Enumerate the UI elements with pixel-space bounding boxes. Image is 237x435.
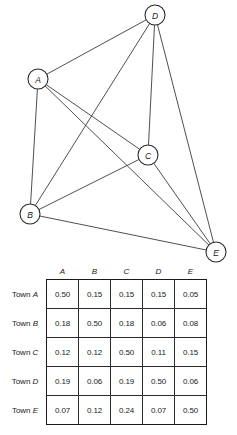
graph-edge-d-e [157, 25, 213, 243]
row-header-letter: B [33, 319, 38, 328]
transition-matrix-figure: ABCDE Town A0.500.150.150.150.05Town B0.… [0, 262, 237, 435]
graph-nodes-group: ABCDE [20, 5, 226, 262]
row-header-letter: A [33, 290, 38, 299]
matrix-row: Town C0.120.120.500.110.15 [4, 338, 207, 367]
matrix-col-header-a: A [47, 264, 79, 280]
row-header-word: Town [12, 348, 33, 357]
graph-node-b[interactable]: B [20, 204, 40, 224]
matrix-row: Town B0.180.500.180.060.08 [4, 309, 207, 338]
matrix-cell-c-b: 0.12 [79, 338, 111, 367]
transition-matrix-table: ABCDE Town A0.500.150.150.150.05Town B0.… [4, 264, 207, 425]
matrix-header-row: ABCDE [4, 264, 207, 280]
matrix-cell-a-b: 0.15 [79, 280, 111, 309]
matrix-table-head: ABCDE [4, 264, 207, 280]
graph-node-e[interactable]: E [206, 242, 226, 262]
graph-edge-a-c [46, 85, 140, 150]
matrix-cell-c-e: 0.15 [175, 338, 207, 367]
matrix-col-header-c: C [111, 264, 143, 280]
matrix-row-header-b: Town B [4, 309, 47, 338]
matrix-cell-b-d: 0.06 [143, 309, 175, 338]
graph-edge-a-b [31, 89, 38, 204]
matrix-cell-a-d: 0.15 [143, 280, 175, 309]
matrix-col-header-d: D [143, 264, 175, 280]
graph-edges-group [31, 20, 214, 250]
matrix-cell-d-a: 0.19 [47, 367, 79, 396]
matrix-table-body: Town A0.500.150.150.150.05Town B0.180.50… [4, 280, 207, 425]
matrix-cell-d-e: 0.06 [175, 367, 207, 396]
network-graph-figure: ABCDE [0, 0, 237, 268]
row-header-word: Town [12, 290, 33, 299]
matrix-cell-b-a: 0.18 [47, 309, 79, 338]
matrix-cell-d-c: 0.19 [111, 367, 143, 396]
matrix-cell-b-b: 0.50 [79, 309, 111, 338]
node-label-e: E [213, 248, 219, 258]
matrix-cell-c-d: 0.11 [143, 338, 175, 367]
matrix-cell-b-c: 0.18 [111, 309, 143, 338]
matrix-row: Town A0.500.150.150.150.05 [4, 280, 207, 309]
row-header-word: Town [12, 319, 33, 328]
matrix-row: Town E0.070.120.240.070.50 [4, 396, 207, 425]
matrix-cell-c-c: 0.50 [111, 338, 143, 367]
matrix-cell-d-b: 0.06 [79, 367, 111, 396]
matrix-col-header-e: E [175, 264, 207, 280]
row-header-letter: E [33, 406, 38, 415]
graph-edge-a-d [47, 20, 146, 74]
matrix-cell-e-d: 0.07 [143, 396, 175, 425]
matrix-cell-a-a: 0.50 [47, 280, 79, 309]
row-header-letter: C [33, 348, 39, 357]
matrix-cell-a-c: 0.15 [111, 280, 143, 309]
matrix-corner-cell [4, 264, 47, 280]
matrix-row-header-d: Town D [4, 367, 47, 396]
network-graph-svg: ABCDE [0, 0, 237, 268]
graph-edge-b-d [35, 23, 149, 205]
matrix-cell-a-e: 0.05 [175, 280, 207, 309]
matrix-col-header-b: B [79, 264, 111, 280]
graph-node-d[interactable]: D [145, 5, 165, 25]
graph-edge-c-e [154, 163, 211, 244]
matrix-cell-e-b: 0.12 [79, 396, 111, 425]
graph-node-c[interactable]: C [138, 145, 158, 165]
row-header-word: Town [12, 406, 33, 415]
node-label-d: D [152, 11, 158, 21]
matrix-cell-c-a: 0.12 [47, 338, 79, 367]
graph-edge-b-e [40, 216, 206, 250]
matrix-cell-d-d: 0.50 [143, 367, 175, 396]
node-label-b: B [27, 210, 33, 220]
node-label-a: A [34, 75, 41, 85]
graph-edge-c-d [149, 25, 155, 145]
graph-edge-b-c [39, 159, 139, 209]
matrix-row-header-e: Town E [4, 396, 47, 425]
row-header-word: Town [12, 377, 33, 386]
matrix-cell-e-a: 0.07 [47, 396, 79, 425]
matrix-row-header-c: Town C [4, 338, 47, 367]
node-label-c: C [145, 151, 152, 161]
matrix-cell-e-e: 0.50 [175, 396, 207, 425]
graph-node-a[interactable]: A [28, 69, 48, 89]
matrix-row: Town D0.190.060.190.500.06 [4, 367, 207, 396]
row-header-letter: D [33, 377, 39, 386]
matrix-cell-b-e: 0.08 [175, 309, 207, 338]
matrix-row-header-a: Town A [4, 280, 47, 309]
matrix-cell-e-c: 0.24 [111, 396, 143, 425]
page-root: ABCDE ABCDE Town A0.500.150.150.150.05To… [0, 0, 237, 435]
